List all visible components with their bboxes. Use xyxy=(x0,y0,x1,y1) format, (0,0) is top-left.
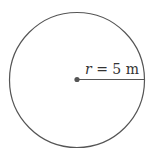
circle-diagram: r = 5 m xyxy=(0,0,149,153)
radius-value: 5 xyxy=(112,61,121,77)
radius-unit: m xyxy=(121,61,139,77)
radius-equals: = xyxy=(92,61,113,77)
center-point xyxy=(74,77,79,82)
radius-label: r = 5 m xyxy=(85,61,139,77)
